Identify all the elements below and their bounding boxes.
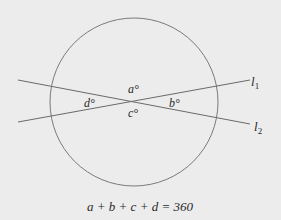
angle-label-c: c° (128, 106, 138, 120)
line-label-l1: l1 (251, 74, 259, 91)
line-label-l1-subscript: 1 (255, 81, 260, 91)
intersecting-lines-circle-diagram: a° b° c° d° l1 l2 a + b + c + d = 360 (0, 0, 281, 220)
line-label-l2-subscript: 2 (258, 126, 263, 136)
angle-sum-equation: a + b + c + d = 360 (87, 199, 193, 214)
angle-label-d: d° (84, 96, 95, 110)
angle-label-a: a° (128, 82, 139, 96)
diagram-canvas: a° b° c° d° l1 l2 a + b + c + d = 360 (0, 0, 281, 220)
angle-label-b: b° (169, 96, 180, 110)
line-label-l2: l2 (254, 119, 262, 136)
